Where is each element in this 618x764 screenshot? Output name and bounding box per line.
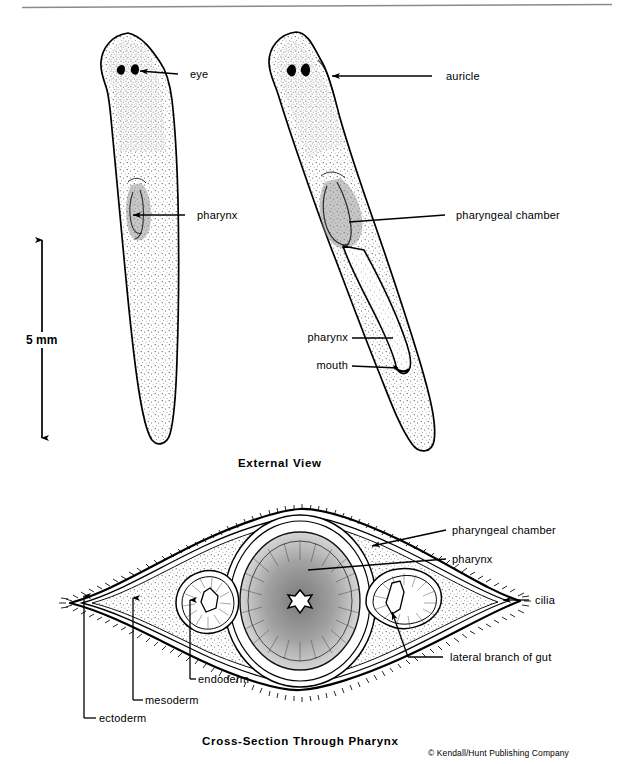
label-eye: eye (190, 68, 208, 80)
planarian-right-external (269, 32, 435, 451)
gut-branch-left (176, 571, 239, 634)
figure-page: eye pharynx auricle pharyngeal chamber p… (0, 0, 618, 764)
label-auricle: auricle (446, 70, 480, 82)
label-pharynx-left: pharynx (197, 209, 238, 221)
caption-cross-section: Cross-Section Through Pharynx (202, 735, 399, 747)
scale-bar-label: 5 mm (24, 332, 59, 348)
label-mesoderm: mesoderm (145, 694, 199, 706)
copyright-notice: © Kendall/Hunt Publishing Company (428, 748, 569, 758)
label-lateral-branch-of-gut: lateral branch of gut (450, 651, 551, 663)
label-pharynx-extruded: pharynx (258, 331, 348, 343)
caption-external-view: External View (238, 457, 322, 469)
label-mouth: mouth (258, 359, 348, 371)
planarian-figure-svg (0, 0, 618, 764)
gut-branch-right (366, 568, 442, 628)
label-pharyngeal-chamber-external: pharyngeal chamber (456, 209, 560, 221)
pharynx-cross (240, 532, 360, 670)
label-endoderm: endoderm (198, 673, 249, 685)
label-pharyngeal-chamber-cross: pharyngeal chamber (452, 524, 556, 536)
label-ectoderm: ectoderm (99, 712, 146, 724)
label-pharynx-cross: pharynx (452, 553, 493, 565)
top-divider-rule (22, 5, 612, 8)
leader-ectoderm (84, 596, 96, 718)
label-cilia: cilia (535, 594, 555, 606)
planarian-left-external (101, 33, 179, 444)
